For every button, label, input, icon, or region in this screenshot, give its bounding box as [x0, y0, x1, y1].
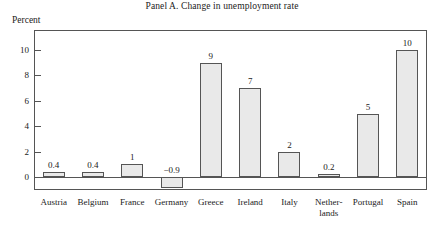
bar: [318, 174, 340, 177]
y-axis-tick: [34, 177, 41, 178]
bar: [82, 172, 104, 177]
y-axis-tick-label: 8: [7, 71, 29, 80]
bar-value-label: 10: [382, 39, 432, 48]
y-axis-tick: [34, 75, 41, 76]
bar-value-label: 9: [186, 52, 236, 61]
bar: [239, 88, 261, 177]
bar: [200, 63, 222, 177]
zero-baseline: [34, 177, 427, 178]
bar-value-label: 7: [225, 77, 275, 86]
y-axis-tick-label: 6: [7, 97, 29, 106]
bar: [396, 50, 418, 177]
bar-value-label: 0.2: [304, 163, 354, 172]
bar-value-label: −0.9: [147, 166, 197, 175]
y-axis-tick: [34, 152, 41, 153]
y-axis-tick: [34, 50, 41, 51]
bar: [278, 152, 300, 177]
y-axis-tick-label: 0: [7, 173, 29, 182]
chart-title: Panel A. Change in unemployment rate: [0, 1, 444, 11]
y-axis-tick-label: 4: [7, 122, 29, 131]
y-axis-tick: [34, 101, 41, 102]
y-axis-tick: [34, 126, 41, 127]
bar-value-label: 2: [264, 141, 314, 150]
y-axis-unit-label: Percent: [12, 15, 41, 25]
x-axis-category-label: Spain: [381, 197, 433, 208]
bar: [43, 172, 65, 177]
bar: [357, 114, 379, 178]
y-axis-tick-label: 2: [7, 148, 29, 157]
y-axis-tick-label: 10: [7, 46, 29, 55]
bar-value-label: 1: [107, 153, 157, 162]
bar: [121, 164, 143, 177]
bar: [161, 177, 183, 188]
bar-value-label: 5: [343, 103, 393, 112]
